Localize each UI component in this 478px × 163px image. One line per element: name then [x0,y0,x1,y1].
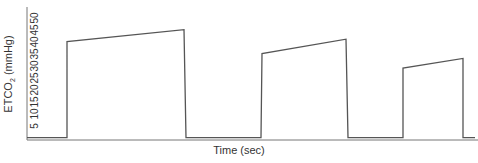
y-tick-label: 50 [29,12,40,24]
etco2-waveform [27,30,475,138]
x-axis-label: Time (sec) [0,144,478,156]
y-tick-label: 35 [29,48,40,60]
y-tick-label: 15 [29,96,40,108]
y-axis-label: ETCO2 (mmHg) [2,35,16,112]
y-tick-label: 25 [29,72,40,84]
y-tick-label: 5 [29,123,40,129]
etco2-chart: 5101520253035404550 ETCO2 (mmHg) Time (s… [0,0,478,163]
y-tick-label: 30 [29,60,40,72]
y-tick-label: 20 [29,84,40,96]
svg-text:ETCO2 (mmHg): ETCO2 (mmHg) [2,35,16,112]
y-tick-label: 10 [29,108,40,120]
y-tick-label: 40 [29,36,40,48]
chart-plot-area: 5101520253035404550 ETCO2 (mmHg) [0,0,478,163]
y-tick-label: 45 [29,24,40,36]
y-tick-labels: 5101520253035404550 [29,12,40,129]
